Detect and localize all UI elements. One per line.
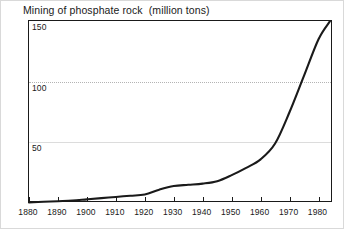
x-tick-label-1950: 1950	[221, 207, 240, 217]
x-tick-label-1930: 1930	[163, 207, 182, 217]
x-tick-label-1940: 1940	[192, 207, 211, 217]
x-tick-label-1970: 1970	[279, 207, 298, 217]
series-line-mining-of-phosphate-rock	[29, 21, 330, 202]
chart-title: Mining of phosphate rock (million tons)	[23, 4, 210, 16]
x-tick-label-1910: 1910	[105, 207, 124, 217]
x-tick-label-1880: 1880	[18, 207, 37, 217]
x-tick-label-1920: 1920	[134, 207, 153, 217]
series-line-group	[29, 21, 333, 203]
x-tick-label-1960: 1960	[250, 207, 269, 217]
x-tick-label-1900: 1900	[76, 207, 95, 217]
chart-figure: Mining of phosphate rock (million tons) …	[0, 0, 344, 229]
x-tick-label-1890: 1890	[47, 207, 66, 217]
plot-area: 15010050	[28, 20, 332, 202]
x-tick-label-1980: 1980	[308, 207, 327, 217]
